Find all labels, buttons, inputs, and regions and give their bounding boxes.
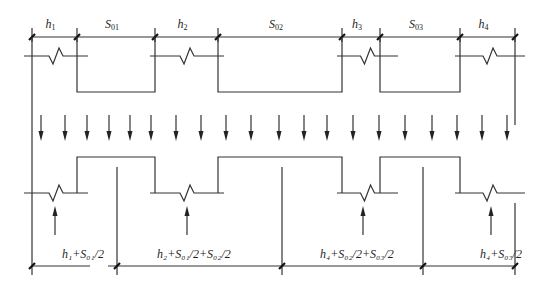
load-arrow-down-icon: [224, 131, 229, 141]
reaction-arrow-up-icon: [361, 206, 366, 216]
label-subscript: 2: [184, 23, 188, 32]
load-arrow-down-icon: [377, 131, 382, 141]
bottom-break-line: [337, 185, 398, 201]
top-break-line: [337, 48, 398, 64]
load-arrow-down-icon: [277, 131, 282, 141]
load-arrow-down-icon: [199, 131, 204, 141]
bottom-break-line: [24, 185, 88, 201]
bottom-dimension-label: h₄+S₀₂/2+S₀₃/2: [320, 247, 394, 261]
load-arrow-down-icon: [63, 131, 68, 141]
label-subscript: 1: [52, 23, 56, 32]
load-arrow-down-icon: [480, 131, 485, 141]
top-opening-outline: [218, 37, 342, 92]
load-arrow-down-icon: [455, 131, 460, 141]
load-arrow-down-icon: [149, 131, 154, 141]
top-break-line: [24, 48, 88, 64]
load-arrow-down-icon: [128, 131, 133, 141]
top-dimension-label: h2: [178, 17, 188, 32]
label-subscript: 02: [275, 23, 283, 32]
reaction-arrow-up-icon: [53, 206, 58, 216]
load-arrow-down-icon: [174, 131, 179, 141]
load-arrow-down-icon: [325, 131, 330, 141]
top-opening-outline: [380, 37, 460, 92]
top-opening-outline: [77, 37, 155, 92]
label-subscript: 01: [111, 23, 119, 32]
label-subscript: 03: [415, 23, 423, 32]
top-dimension-label: h4: [479, 17, 489, 32]
top-dimension-label: S01: [105, 17, 119, 32]
bottom-dimension-label: h₁+S₀₁/2: [62, 247, 104, 261]
diagram-canvas: h1S01h2S02h3S03h4 h₁+S₀₁/2h₂+S₀₁/2+S₀₂/2…: [0, 0, 545, 295]
bottom-dimension-label: h₄+S₀₃/2: [480, 247, 522, 261]
top-break-line: [150, 48, 224, 64]
bottom-opening-outline: [218, 157, 342, 193]
bottom-break-line: [455, 185, 525, 201]
top-dimension-label: h3: [352, 17, 362, 32]
load-arrow-down-icon: [39, 131, 44, 141]
bottom-opening-outline: [77, 157, 155, 193]
bottom-opening-outline: [380, 157, 460, 193]
load-arrow-down-icon: [249, 131, 254, 141]
load-arrow-down-icon: [351, 131, 356, 141]
bottom-break-line: [150, 185, 224, 201]
label-subscript: 3: [358, 23, 362, 32]
top-dimension-label: h1: [46, 17, 56, 32]
load-arrow-down-icon: [302, 131, 307, 141]
load-arrow-down-icon: [430, 131, 435, 141]
load-arrow-down-icon: [403, 131, 408, 141]
bottom-dimension-label: h₂+S₀₁/2+S₀₂/2: [157, 247, 231, 261]
load-arrow-down-icon: [107, 131, 112, 141]
reaction-arrow-up-icon: [185, 206, 190, 216]
load-arrow-down-icon: [85, 131, 90, 141]
load-arrow-down-icon: [505, 131, 510, 141]
top-dimension-label: S02: [269, 17, 283, 32]
reaction-arrow-up-icon: [489, 206, 494, 216]
top-dimension-label: S03: [409, 17, 423, 32]
label-subscript: 4: [485, 23, 489, 32]
